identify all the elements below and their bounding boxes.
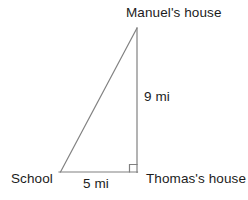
triangle-figure: [0, 0, 248, 200]
measurement-label-horizontal-leg: 5 mi: [83, 177, 109, 191]
right-angle-marker-icon: [130, 165, 138, 173]
vertex-label-manuel-house: Manuel's house: [126, 6, 222, 20]
measurement-label-vertical-leg: 9 mi: [144, 90, 170, 104]
diagram-canvas: Manuel's house School Thomas's house 9 m…: [0, 0, 248, 200]
vertex-label-school: School: [11, 172, 53, 186]
vertex-label-thomas-house: Thomas's house: [146, 172, 246, 186]
hypotenuse-line: [61, 28, 138, 172]
